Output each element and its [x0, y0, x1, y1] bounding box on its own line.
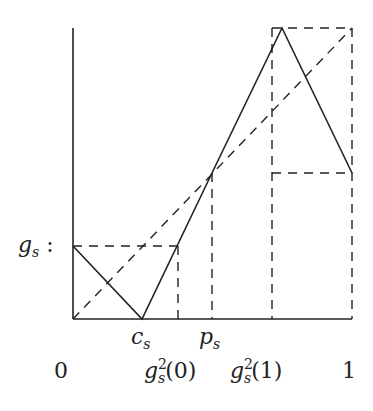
- x-tick-1: 1: [342, 360, 356, 382]
- plot-canvas: [0, 0, 373, 411]
- x-tick-g2-1: g2s(1): [230, 357, 282, 385]
- cs-label: cs: [131, 326, 151, 351]
- diagram: gs : cs ps 0 g2s(0) g2s(1) 1: [0, 0, 373, 411]
- ps-label: ps: [199, 326, 220, 351]
- x-tick-g2-0: g2s(0): [144, 357, 196, 385]
- x-tick-0: 0: [54, 360, 68, 382]
- gs-label: gs :: [18, 234, 54, 259]
